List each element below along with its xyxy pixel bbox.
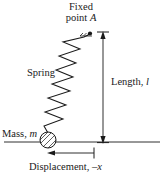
length-label: Length, l bbox=[111, 76, 149, 87]
spring-mass-diagram: Fixed point A Spring Length, l Mass, m D… bbox=[0, 0, 164, 177]
fixed-point-label: Fixed point A bbox=[55, 1, 107, 24]
fixed-point-label-text: point bbox=[66, 12, 90, 23]
fixed-point-label-line1: Fixed bbox=[55, 1, 107, 12]
fixed-point-dot bbox=[88, 31, 92, 35]
fixed-point-label-line2: point A bbox=[55, 12, 107, 23]
displacement-dimension-arrow bbox=[47, 148, 94, 159]
diagram-canvas bbox=[0, 0, 164, 177]
length-label-text: Length, bbox=[111, 76, 146, 87]
displacement-label: Displacement, –x bbox=[29, 161, 102, 172]
displacement-label-text: Displacement, bbox=[29, 161, 92, 172]
length-dimension-arrow bbox=[97, 31, 109, 144]
fixed-point-label-symbol: A bbox=[90, 12, 96, 23]
spring-label: Spring bbox=[27, 67, 55, 78]
length-label-symbol: l bbox=[146, 76, 149, 87]
displacement-label-symbol: –x bbox=[92, 161, 102, 172]
mass-label-text: Mass, bbox=[2, 128, 29, 139]
zigzag-spring bbox=[44, 34, 90, 133]
mass-label-symbol: m bbox=[29, 128, 37, 139]
mass-label: Mass, m bbox=[2, 128, 37, 139]
